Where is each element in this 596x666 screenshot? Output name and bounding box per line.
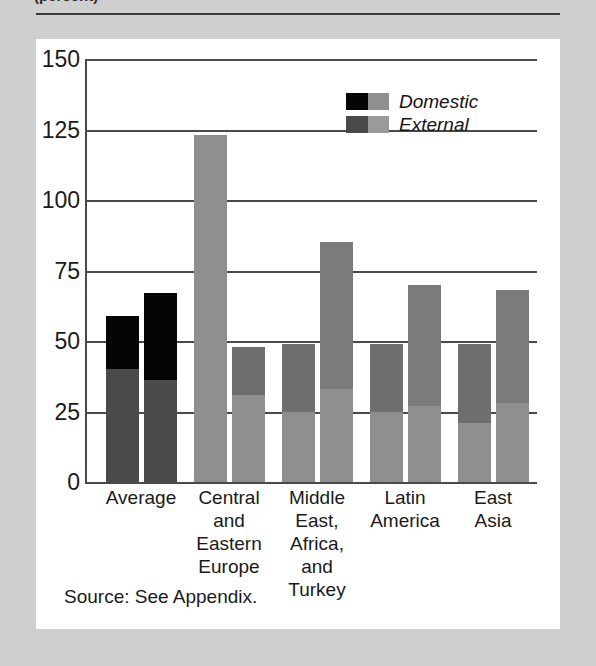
legend-swatch <box>346 93 389 110</box>
scanned-page: (percent) 0255075100125150 AverageCentra… <box>0 0 596 666</box>
bar[interactable] <box>370 344 403 482</box>
y-axis-tick <box>85 482 97 484</box>
bar-segment <box>458 344 491 423</box>
y-axis-tick-label: 125 <box>42 116 80 143</box>
bar-segment <box>496 403 529 482</box>
x-axis-label-line: Europe <box>185 555 273 578</box>
bar[interactable] <box>282 344 315 482</box>
bar-group <box>185 59 273 482</box>
x-axis-label-line: America <box>361 509 449 532</box>
bar-segment <box>106 316 139 370</box>
bar-segment <box>320 389 353 482</box>
bar-segment <box>282 412 315 483</box>
y-axis-tick <box>85 130 97 132</box>
bar-segment <box>144 380 177 482</box>
y-axis-tick-label: 150 <box>42 46 80 73</box>
x-axis-label: Average <box>97 486 185 509</box>
bar-segment <box>370 344 403 412</box>
x-axis-label: LatinAmerica <box>361 486 449 532</box>
bar-group <box>97 59 185 482</box>
y-axis-tick-label: 100 <box>42 187 80 214</box>
legend-item[interactable]: External <box>346 115 478 134</box>
x-axis-label-line: East, <box>273 509 361 532</box>
bar-segment <box>232 347 265 395</box>
bar-segment <box>320 242 353 389</box>
legend-label: Domestic <box>399 91 478 113</box>
bar-segment <box>282 344 315 412</box>
figure-title: (percent) <box>34 0 98 4</box>
bar-segment <box>458 423 491 482</box>
x-axis-label-line: Africa, <box>273 532 361 555</box>
bar-segment <box>194 135 227 482</box>
y-axis-tick <box>85 200 97 202</box>
x-axis-label-line: and <box>185 509 273 532</box>
title-divider <box>36 13 560 15</box>
y-axis-tick-label: 0 <box>67 469 80 496</box>
x-axis-label-line: and <box>273 555 361 578</box>
y-axis-tick-label: 50 <box>54 328 80 355</box>
y-axis-tick <box>85 271 97 273</box>
x-axis-label-line: Eastern <box>185 532 273 555</box>
bar-segment <box>370 412 403 483</box>
bar-segment <box>106 369 139 482</box>
bar-segment <box>408 406 441 482</box>
x-axis-label-line: Turkey <box>273 578 361 601</box>
x-axis-label-line: Central <box>185 486 273 509</box>
chart-legend: DomesticExternal <box>346 92 478 138</box>
source-note: Source: See Appendix. <box>64 586 257 608</box>
legend-swatch <box>346 116 389 133</box>
y-axis-tick-label: 75 <box>54 257 80 284</box>
x-axis-label: EastAsia <box>449 486 537 532</box>
y-axis-tick <box>85 59 97 61</box>
bar-segment <box>496 290 529 403</box>
bar[interactable] <box>320 242 353 482</box>
legend-label: External <box>399 114 469 136</box>
bar[interactable] <box>106 316 139 482</box>
bar[interactable] <box>194 135 227 482</box>
bar-segment <box>144 293 177 380</box>
bar-segment <box>408 285 441 406</box>
x-axis-label: MiddleEast,Africa,andTurkey <box>273 486 361 601</box>
x-axis-label: CentralandEasternEurope <box>185 486 273 578</box>
x-axis-line <box>85 482 537 484</box>
x-axis-label-line: Middle <box>273 486 361 509</box>
legend-item[interactable]: Domestic <box>346 92 478 111</box>
x-axis-label-line: East <box>449 486 537 509</box>
y-axis-tick <box>85 412 97 414</box>
bar-segment <box>232 395 265 482</box>
bar[interactable] <box>496 290 529 482</box>
x-axis-label-line: Latin <box>361 486 449 509</box>
bar[interactable] <box>458 344 491 482</box>
y-axis-tick <box>85 341 97 343</box>
bar[interactable] <box>144 293 177 482</box>
y-axis-tick-label: 25 <box>54 398 80 425</box>
x-axis-label-line: Average <box>97 486 185 509</box>
x-axis-label-line: Asia <box>449 509 537 532</box>
bar[interactable] <box>408 285 441 482</box>
bar[interactable] <box>232 347 265 482</box>
chart-card: 0255075100125150 AverageCentralandEaster… <box>36 39 560 629</box>
